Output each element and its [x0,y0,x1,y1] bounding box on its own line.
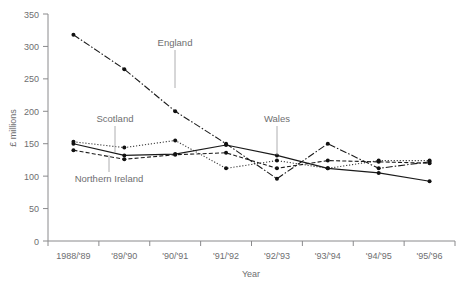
x-axis-tick-labels: 1988/'89'89/'90'90/'91'91/'92'92/'93'93/… [56,251,442,261]
x-tick-label: '94/'95 [366,251,392,261]
data-point [275,159,279,163]
y-axis-ticks [43,14,48,241]
series-label-wales: Wales [264,113,290,124]
y-tick-label: 200 [24,107,39,117]
data-point [122,67,126,71]
data-point [122,153,126,157]
y-tick-label: 350 [24,10,39,20]
y-tick-label: 50 [29,204,39,214]
data-point [224,166,228,170]
x-tick-label: '91/'92 [213,251,239,261]
data-point [377,166,381,170]
data-point [326,159,330,163]
y-tick-label: 100 [24,172,39,182]
series-line [73,140,429,168]
data-point [326,142,330,146]
line-chart: 350 300 250 200 150 100 50 0 £ millions … [0,0,464,285]
series-line [73,150,429,168]
y-tick-label: 300 [24,42,39,52]
data-point [71,148,75,152]
data-point [377,171,381,175]
y-axis-title: £ millions [8,109,18,147]
data-point [428,161,432,165]
chart-canvas: 350 300 250 200 150 100 50 0 £ millions … [0,0,464,285]
x-tick-label: '95/'96 [417,251,443,261]
x-tick-label: '92/'93 [264,251,290,261]
data-point [224,151,228,155]
y-axis-tick-labels: 350 300 250 200 150 100 50 0 [24,10,39,247]
data-point [224,143,228,147]
y-tick-label: 0 [34,237,39,247]
data-point [173,109,177,113]
x-tick-label: '90/'91 [162,251,188,261]
series-layer [71,33,431,184]
y-tick-label: 150 [24,139,39,149]
series-label-northern-ireland: Northern Ireland [75,173,144,184]
data-point [275,166,279,170]
x-axis-title: Year [242,269,260,279]
data-point [326,166,330,170]
series-label-scotland: Scotland [97,113,134,124]
x-tick-label: 1988/'89 [56,251,90,261]
data-point [173,138,177,142]
x-tick-label: '89/'90 [111,251,137,261]
x-tick-label: '93/'94 [315,251,341,261]
data-point [122,157,126,161]
data-point [122,146,126,150]
data-point [275,177,279,181]
data-point [71,142,75,146]
data-point [173,153,177,157]
series-label-england: England [158,37,193,48]
data-point [377,160,381,164]
data-point [71,33,75,37]
y-tick-label: 250 [24,74,39,84]
series-line [73,35,429,179]
x-axis-ticks [48,241,455,246]
data-point [428,179,432,183]
